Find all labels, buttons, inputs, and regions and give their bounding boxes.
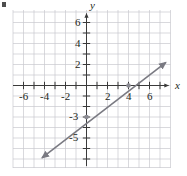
y-tick-label-2: 2 [75,59,81,70]
y-axis-label: y [90,0,95,11]
x-tick-label-neg6: -6 [19,91,28,102]
x-tick-label-6: 6 [147,91,153,102]
y-tick-label-neg3: -3 [69,111,78,122]
plotted-line [42,62,166,158]
x-tick-label-2: 2 [105,91,111,102]
coordinate-plane [0,0,187,176]
x-tick-label-neg2: -2 [61,91,70,102]
graph-figure: -6 -4 -2 2 4 6 6 4 2 -3 -5 x y [0,0,187,176]
y-tick-label-6: 6 [75,17,81,28]
grid-lines [13,10,171,168]
x-tick-label-neg4: -4 [40,91,49,102]
x-axis-label: x [175,80,180,91]
x-tick-label-4: 4 [126,91,132,102]
point-y-intercept [84,115,89,120]
point-x-intercept [126,83,131,88]
y-tick-label-4: 4 [75,38,81,49]
y-tick-label-neg5: -5 [69,132,78,143]
